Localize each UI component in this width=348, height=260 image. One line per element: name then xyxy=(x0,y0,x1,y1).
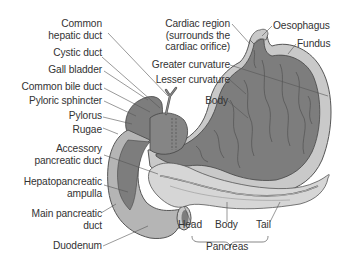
label-pancreas-tail: Tail xyxy=(256,219,271,231)
label-oesophagus: Oesophagus xyxy=(273,20,330,32)
label-line: hepatic duct xyxy=(30,30,102,42)
label-line: Hepatopancreatic xyxy=(6,176,102,188)
label-line: ampulla xyxy=(6,188,102,200)
label-line: Oesophagus xyxy=(273,20,330,32)
label-accessory-pancreatic-duct: Accessory pancreatic duct xyxy=(10,143,102,166)
label-main-pancreatic-duct: Main pancreatic duct xyxy=(10,208,102,231)
label-line: Accessory xyxy=(10,143,102,155)
label-line: Gall bladder xyxy=(20,64,102,76)
label-line: Main pancreatic xyxy=(10,208,102,220)
label-line: cardiac orifice) xyxy=(150,41,230,53)
label-gall-bladder: Gall bladder xyxy=(20,64,102,76)
label-line: pancreatic duct xyxy=(10,155,102,167)
duodenum-mucosa xyxy=(117,140,150,210)
label-line: Greater curvature xyxy=(140,59,230,71)
label-cardiac-region: Cardiac region (surrounds the cardiac or… xyxy=(150,18,230,53)
label-lesser-curvature: Lesser curvature xyxy=(140,74,230,86)
label-cystic-duct: Cystic duct xyxy=(20,47,102,59)
label-line: Pyloric sphincter xyxy=(4,95,102,107)
label-line: Duodenum xyxy=(20,240,102,252)
label-pyloric-sphincter: Pyloric sphincter xyxy=(4,95,102,107)
label-line: Cystic duct xyxy=(20,47,102,59)
label-line: Common xyxy=(30,18,102,30)
label-pancreas-body: Body xyxy=(215,219,238,231)
label-body-stomach: Body xyxy=(180,95,228,107)
label-greater-curvature: Greater curvature xyxy=(140,59,230,71)
label-line: Lesser curvature xyxy=(140,74,230,86)
label-pancreas-group: Pancreas xyxy=(206,241,248,253)
label-line: Cardiac region xyxy=(150,18,230,30)
label-duodenum: Duodenum xyxy=(20,240,102,252)
label-common-bile-duct: Common bile duct xyxy=(4,81,102,93)
label-line: Common bile duct xyxy=(4,81,102,93)
label-line: Body xyxy=(180,95,228,107)
label-line: Pylorus xyxy=(20,110,102,122)
label-hepatopancreatic-ampulla: Hepatopancreatic ampulla xyxy=(6,176,102,199)
pyloric-sphincter-shape xyxy=(150,113,188,154)
label-line: Rugae xyxy=(20,124,102,136)
label-fundus: Fundus xyxy=(297,38,330,50)
label-pylorus: Pylorus xyxy=(20,110,102,122)
label-line: Fundus xyxy=(297,38,330,50)
label-common-hepatic-duct: Common hepatic duct xyxy=(30,18,102,41)
label-line: duct xyxy=(10,220,102,232)
label-pancreas-head: Head xyxy=(178,219,202,231)
label-line: (surrounds the xyxy=(150,30,230,42)
label-rugae: Rugae xyxy=(20,124,102,136)
